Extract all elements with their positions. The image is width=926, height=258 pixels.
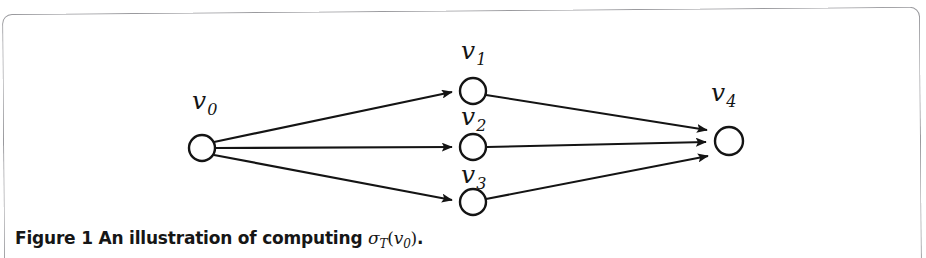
caption-sigma: σ	[368, 228, 379, 248]
caption-sigma-subscript: T	[380, 237, 388, 251]
node-label-v1: v1	[461, 38, 485, 63]
node-label-v4: v4	[711, 80, 735, 105]
caption-v-subscript: 0	[403, 237, 410, 251]
edge-v0-v3	[214, 155, 452, 200]
caption-prefix: Figure 1 An illustration of computing	[15, 228, 368, 248]
node-label-v2: v2	[461, 104, 485, 129]
node-label-v4-base: v	[711, 78, 725, 107]
edge-v2-v4	[487, 142, 706, 147]
node-label-v0-base: v	[192, 86, 206, 115]
caption-math-expression: σT(v0)	[368, 228, 417, 248]
node-label-v3-base: v	[461, 160, 475, 189]
caption-v: v	[394, 228, 403, 248]
edge-v1-v4	[486, 95, 707, 130]
figure-caption: Figure 1 An illustration of computing σT…	[15, 228, 423, 248]
node-v1[interactable]	[460, 78, 486, 104]
figure-page: v0 v1 v2 v3 v4 Figure 1 An illustration …	[0, 0, 926, 258]
edge-v0-v1	[214, 92, 452, 142]
node-label-v1-sub: 1	[476, 50, 486, 69]
node-label-v3-sub: 3	[476, 174, 486, 193]
node-label-v4-sub: 4	[726, 92, 736, 111]
node-v0[interactable]	[189, 135, 215, 161]
edge-v3-v4	[486, 156, 708, 199]
caption-suffix: .	[417, 228, 423, 248]
edge-v0-v2	[215, 147, 452, 148]
node-label-v3: v3	[461, 162, 485, 187]
node-label-v2-base: v	[461, 102, 475, 131]
node-label-v1-base: v	[461, 36, 475, 65]
node-v2[interactable]	[460, 134, 486, 160]
node-v4[interactable]	[715, 127, 743, 155]
node-label-v0-sub: 0	[207, 100, 217, 119]
node-label-v0: v0	[192, 88, 216, 113]
node-label-v2-sub: 2	[476, 116, 486, 135]
